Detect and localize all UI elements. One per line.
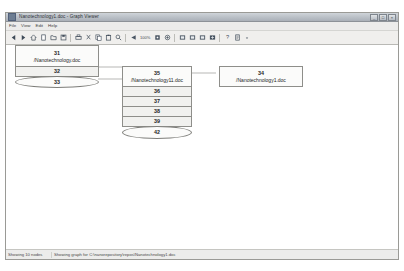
node-35-label: /Nanotechnology11.doc bbox=[131, 77, 183, 84]
node-35-id: 35 bbox=[154, 70, 160, 77]
node-33-id: 33 bbox=[54, 79, 60, 86]
cluster-middle: 35 /Nanotechnology11.doc 36 37 38 39 42 bbox=[122, 66, 192, 139]
node-39-id: 39 bbox=[154, 118, 160, 125]
toolbar-separator bbox=[174, 34, 175, 42]
toolbar: 100% ? bbox=[6, 31, 398, 45]
node-34[interactable]: 34 /Nanotechnology1.doc bbox=[219, 66, 303, 87]
zoom-out-icon[interactable] bbox=[129, 34, 137, 42]
open-folder-icon[interactable] bbox=[49, 34, 57, 42]
dropdown-chevron-down-icon[interactable] bbox=[243, 34, 251, 42]
toolbar-group-filters bbox=[178, 34, 216, 42]
forward-arrow-icon[interactable] bbox=[19, 34, 27, 42]
toolbar-separator bbox=[70, 34, 71, 42]
menu-item-help[interactable]: Help bbox=[48, 23, 57, 29]
node-31-id: 31 bbox=[54, 50, 60, 57]
magnifier-icon[interactable] bbox=[114, 34, 122, 42]
title-bar: Nanotechnology1.doc - Graph Viewer _ □ × bbox=[6, 13, 398, 22]
zoom-target-icon[interactable] bbox=[153, 34, 161, 42]
node-35[interactable]: 35 /Nanotechnology11.doc bbox=[122, 66, 192, 87]
menu-item-view[interactable]: View bbox=[21, 23, 30, 29]
toolbar-group-navigation bbox=[9, 34, 67, 42]
cluster-right: 34 /Nanotechnology1.doc bbox=[219, 66, 303, 87]
minimize-button[interactable]: _ bbox=[370, 14, 378, 21]
save-icon[interactable] bbox=[59, 34, 67, 42]
node-36-id: 36 bbox=[154, 88, 160, 95]
window-controls: _ □ × bbox=[370, 14, 396, 21]
copy-icon[interactable] bbox=[94, 34, 102, 42]
node-42[interactable]: 42 bbox=[122, 126, 192, 139]
help-icon[interactable]: ? bbox=[223, 34, 231, 42]
toolbar-group-edit bbox=[74, 34, 122, 42]
node-filter-icon[interactable] bbox=[178, 34, 186, 42]
properties-icon[interactable] bbox=[233, 34, 241, 42]
zoom-level-label: 100% bbox=[140, 35, 150, 40]
toolbar-group-zoom: 100% bbox=[129, 34, 171, 42]
application-window: Nanotechnology1.doc - Graph Viewer _ □ ×… bbox=[5, 12, 399, 260]
toolbar-separator bbox=[219, 34, 220, 42]
node-37-id: 37 bbox=[154, 98, 160, 105]
back-arrow-icon[interactable] bbox=[9, 34, 17, 42]
new-document-icon[interactable] bbox=[39, 34, 47, 42]
cut-icon[interactable] bbox=[84, 34, 92, 42]
node-34-label: /Nanotechnology1.doc bbox=[236, 77, 286, 84]
clipboard-icon[interactable] bbox=[104, 34, 112, 42]
node-31-label: /Nanotechnology.doc bbox=[34, 57, 81, 64]
svg-text:?: ? bbox=[226, 34, 229, 40]
application-icon bbox=[8, 13, 16, 21]
menu-item-edit[interactable]: Edit bbox=[36, 23, 44, 29]
maximize-button[interactable]: □ bbox=[379, 14, 387, 21]
node-32-id: 32 bbox=[54, 68, 60, 75]
node-31[interactable]: 31 /Nanotechnology.doc bbox=[15, 45, 99, 67]
node-34-id: 34 bbox=[258, 70, 264, 77]
home-icon[interactable] bbox=[29, 34, 37, 42]
zoom-in-icon[interactable] bbox=[163, 34, 171, 42]
menu-item-file[interactable]: File bbox=[9, 23, 16, 29]
node-38-id: 38 bbox=[154, 108, 160, 115]
print-icon[interactable] bbox=[74, 34, 82, 42]
menu-bar: File View Edit Help bbox=[6, 22, 398, 31]
cluster-left: 31 /Nanotechnology.doc 32 33 bbox=[15, 45, 99, 88]
node-42-id: 42 bbox=[154, 129, 160, 136]
cluster-icon[interactable] bbox=[198, 34, 206, 42]
toolbar-group-help: ? bbox=[223, 34, 251, 42]
status-graph-path: Showing graph for C:\nanorepository\repo… bbox=[52, 252, 398, 258]
close-button[interactable]: × bbox=[388, 14, 396, 21]
graph-canvas[interactable]: 31 /Nanotechnology.doc 32 33 35 /Nanotec… bbox=[6, 45, 398, 249]
status-bar: Showing 10 nodes Showing graph for C:\na… bbox=[6, 249, 398, 259]
edge-filter-icon[interactable] bbox=[188, 34, 196, 42]
toolbar-separator bbox=[125, 34, 126, 42]
window-title: Nanotechnology1.doc - Graph Viewer bbox=[19, 14, 370, 20]
status-node-count: Showing 10 nodes bbox=[6, 252, 52, 258]
export-icon[interactable] bbox=[208, 34, 216, 42]
node-33[interactable]: 33 bbox=[15, 76, 99, 88]
